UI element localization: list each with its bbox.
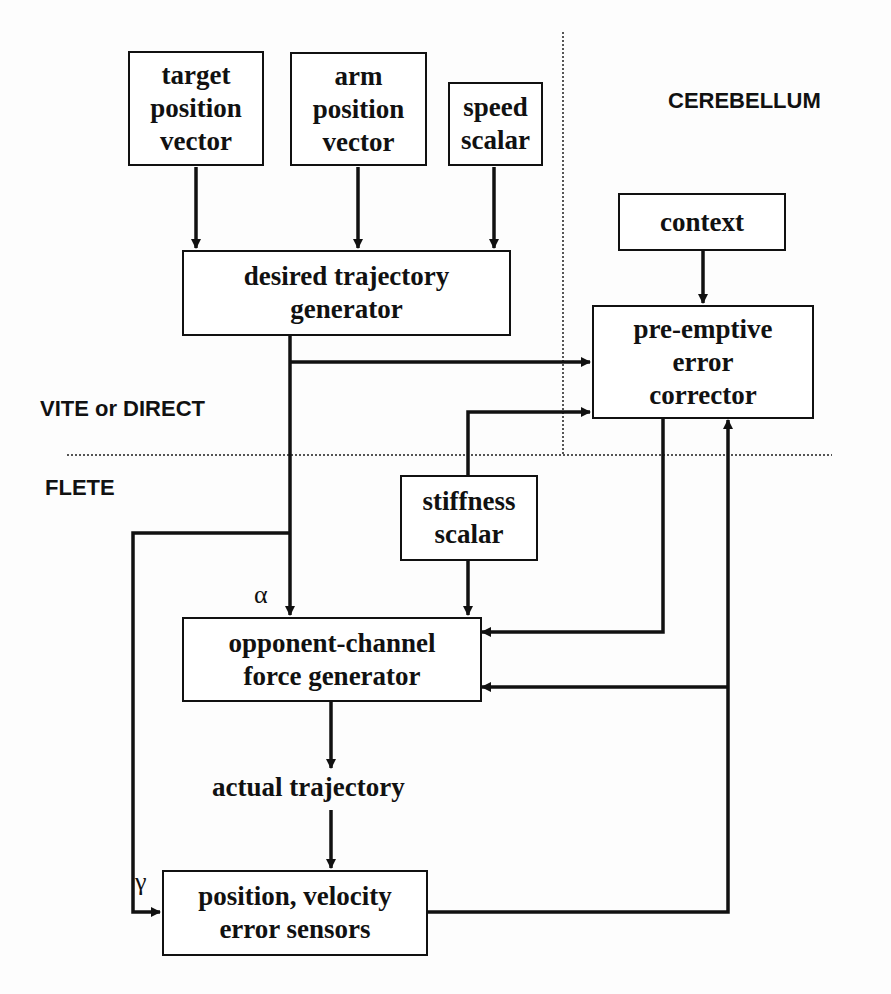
region-label-vite-direct: VITE or DIRECT (40, 396, 205, 422)
box-line: error sensors (219, 913, 370, 946)
actual-trajectory-label: actual trajectory (212, 772, 405, 803)
region-label-cerebellum: CEREBELLUM (668, 88, 821, 114)
target-position-vector-box: target position vector (128, 51, 264, 166)
box-line: opponent-channel (228, 627, 435, 660)
diagram-canvas: CEREBELLUM VITE or DIRECT FLETE target p… (0, 0, 891, 994)
box-line: position (150, 92, 242, 125)
box-line: force generator (243, 660, 420, 693)
box-line: vector (160, 125, 232, 158)
box-line: arm (335, 60, 383, 93)
box-line: scalar (435, 518, 504, 551)
arm-position-vector-box: arm position vector (290, 52, 427, 166)
pre-emptive-error-corrector-box: pre-emptive error corrector (592, 305, 814, 419)
opponent-channel-force-generator-box: opponent-channel force generator (182, 617, 482, 702)
box-line: speed (463, 91, 528, 124)
gamma-label: γ (135, 867, 147, 897)
box-line: context (660, 206, 744, 239)
stiffness-scalar-box: stiffness scalar (400, 475, 538, 561)
box-line: target (162, 59, 231, 92)
box-line: position, velocity (198, 880, 392, 913)
context-box: context (618, 193, 786, 251)
box-line: corrector (649, 379, 756, 412)
box-line: stiffness (423, 485, 516, 518)
desired-trajectory-generator-box: desired trajectory generator (182, 250, 511, 336)
speed-scalar-box: speed scalar (448, 82, 543, 166)
box-line: pre-emptive (634, 313, 773, 346)
position-velocity-error-sensors-box: position, velocity error sensors (162, 870, 428, 956)
box-line: scalar (461, 124, 530, 157)
region-label-flete: FLETE (45, 475, 115, 501)
box-line: desired trajectory (244, 260, 450, 293)
box-line: generator (290, 293, 402, 326)
box-line: vector (323, 126, 395, 159)
box-line: position (313, 93, 405, 126)
box-line: error (673, 346, 734, 379)
alpha-label: α (254, 580, 268, 610)
